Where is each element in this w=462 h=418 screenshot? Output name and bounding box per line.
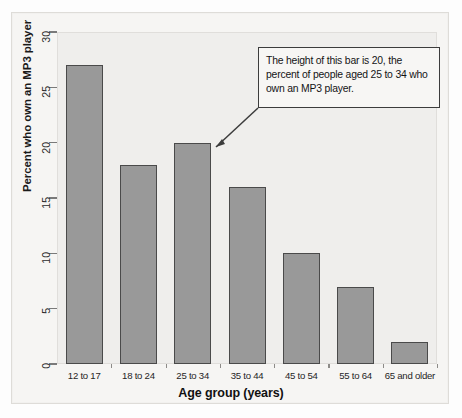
bar	[66, 65, 103, 364]
bar	[120, 165, 157, 364]
chart-figure: Percent who own an MP3 player 0510152025…	[0, 0, 462, 418]
x-axis-tick	[166, 364, 167, 368]
callout-box: The height of this bar is 20, the percen…	[258, 47, 440, 108]
callout-text: The height of this bar is 20, the percen…	[266, 54, 432, 97]
y-axis-tick-label: 15	[40, 197, 52, 223]
bar	[174, 143, 211, 364]
y-axis-title: Percent who own an MP3 player	[21, 0, 33, 221]
bar	[283, 253, 320, 364]
x-axis-tick	[383, 364, 384, 368]
x-axis-tick	[328, 364, 329, 368]
callout-leader-line	[200, 100, 270, 160]
x-axis-title: Age group (years)	[0, 386, 462, 400]
bar	[391, 342, 428, 364]
x-axis-tick	[437, 364, 438, 368]
x-axis-tick-label: 65 and older	[370, 370, 450, 381]
bar	[229, 187, 266, 364]
x-axis-tick	[220, 364, 221, 368]
x-axis-tick	[111, 364, 112, 368]
y-axis-tick-label: 20	[40, 142, 52, 168]
x-axis-tick	[274, 364, 275, 368]
bar	[337, 287, 374, 364]
y-axis-tick-label: 25	[40, 86, 52, 112]
y-axis-tick-label: 10	[40, 252, 52, 278]
y-axis-tick-label: 5	[40, 308, 52, 334]
y-axis-tick-label: 30	[40, 31, 52, 57]
